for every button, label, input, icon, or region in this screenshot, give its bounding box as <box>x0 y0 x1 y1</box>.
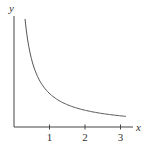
x-tick-label: 2 <box>82 131 88 143</box>
y-axis-label: y <box>8 2 14 14</box>
chart: 123 y x <box>0 0 149 145</box>
x-axis-label: x <box>135 121 141 133</box>
curve <box>25 19 126 116</box>
x-tick-label: 3 <box>118 131 124 143</box>
x-tick-label: 1 <box>47 131 53 143</box>
